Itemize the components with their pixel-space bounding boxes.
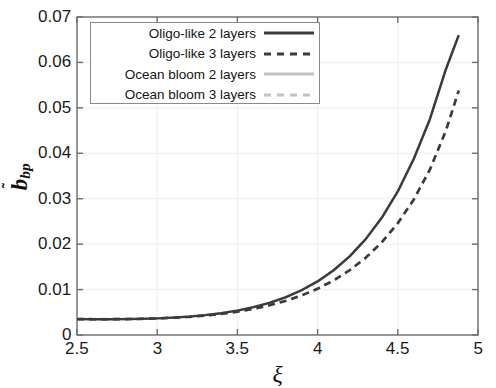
legend-line-sample [263,48,315,60]
y-tick-label: 0.06 [38,52,71,72]
legend-line-sample [263,68,315,80]
x-tick-label: 5 [474,339,483,359]
y-tick-label: 0.05 [38,98,71,118]
y-tick-label: 0.07 [38,7,71,27]
legend-item-label: Oligo-like 3 layers [149,46,256,61]
x-tick-label: 4.5 [386,339,410,359]
y-tick-label: 0.04 [38,143,71,163]
x-tick-label: 4 [313,339,322,359]
legend-line-sample [263,89,315,101]
chart-figure: 2.533.544.55 00.010.020.030.040.050.060.… [0,0,496,388]
y-tick-label: 0.03 [38,189,71,209]
legend-item[interactable]: Ocean bloom 2 layers [91,64,319,85]
y-tick-label: 0.02 [38,234,71,254]
y-tick-label: 0 [62,325,71,345]
series-line-3 [77,91,459,320]
series-line-1 [77,91,459,320]
x-tick-label: 3.5 [225,339,249,359]
y-axis-label: ˜bbp [6,163,33,190]
legend-item-label: Ocean bloom 3 layers [125,87,256,102]
legend-item-label: Ocean bloom 2 layers [125,67,256,82]
legend-line-sample [263,27,315,39]
legend-item[interactable]: Oligo-like 3 layers [91,44,319,65]
legend: Oligo-like 2 layersOligo-like 3 layersOc… [90,22,320,104]
legend-item-label: Oligo-like 2 layers [149,26,256,41]
y-tick-label: 0.01 [38,280,71,300]
x-axis-label: ξ [273,361,283,388]
x-tick-label: 3 [153,339,162,359]
legend-item[interactable]: Oligo-like 2 layers [91,23,319,44]
legend-item[interactable]: Ocean bloom 3 layers [91,85,319,106]
